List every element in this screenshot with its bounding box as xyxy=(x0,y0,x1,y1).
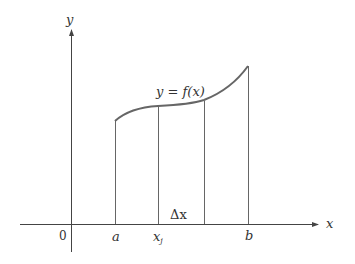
origin-label: 0 xyxy=(59,229,67,243)
tick-label-xj: xj xyxy=(153,229,163,245)
tick-label-b: b xyxy=(245,228,253,243)
delta-x-label: Δx xyxy=(170,207,187,222)
y-axis-label: y xyxy=(65,12,74,27)
tick-label-a: a xyxy=(112,229,120,244)
x-axis-label: x xyxy=(326,216,334,231)
curve-label: y = f(x) xyxy=(155,84,205,99)
diagram-canvas: y x 0 a xj b Δx y = f(x) xyxy=(0,0,355,264)
